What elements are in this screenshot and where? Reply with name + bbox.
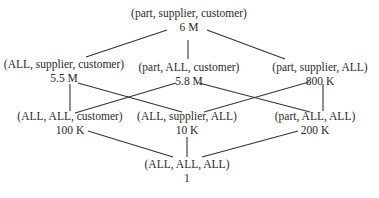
node-part-all-all: (part, ALL, ALL) 200 K — [275, 110, 355, 137]
node-label: (part, ALL, customer) — [139, 61, 240, 75]
node-count: 5.8 M — [139, 75, 240, 89]
node-label: (part, supplier, ALL) — [272, 61, 367, 75]
edge-psc-psa — [207, 30, 285, 59]
node-count: 5.5 M — [4, 72, 124, 86]
node-label: (ALL, ALL, customer) — [17, 110, 122, 124]
node-label: (ALL, supplier, ALL) — [137, 110, 237, 124]
node-label: (ALL, ALL, ALL) — [145, 158, 230, 172]
node-count: 10 K — [137, 124, 237, 138]
node-label: (ALL, supplier, customer) — [4, 58, 124, 72]
node-label: (part, ALL, ALL) — [275, 110, 355, 124]
node-count: 6 M — [131, 21, 247, 35]
edge-psc-asc — [86, 30, 167, 57]
node-all-supplier-all: (ALL, supplier, ALL) 10 K — [137, 110, 237, 137]
node-all-all-all: (ALL, ALL, ALL) 1 — [145, 158, 230, 185]
node-count: 1 — [145, 172, 230, 186]
node-part-supplier-all: (part, supplier, ALL) 800 K — [272, 61, 367, 88]
node-count: 800 K — [272, 75, 367, 89]
node-all-supplier-customer: (ALL, supplier, customer) 5.5 M — [4, 58, 124, 85]
node-part-all-customer: (part, ALL, customer) 5.8 M — [139, 61, 240, 88]
node-part-supplier-customer: (part, supplier, customer) 6 M — [131, 7, 247, 34]
node-count: 100 K — [17, 124, 122, 138]
node-label: (part, supplier, customer) — [131, 7, 247, 21]
node-count: 200 K — [275, 124, 355, 138]
node-all-all-customer: (ALL, ALL, customer) 100 K — [17, 110, 122, 137]
